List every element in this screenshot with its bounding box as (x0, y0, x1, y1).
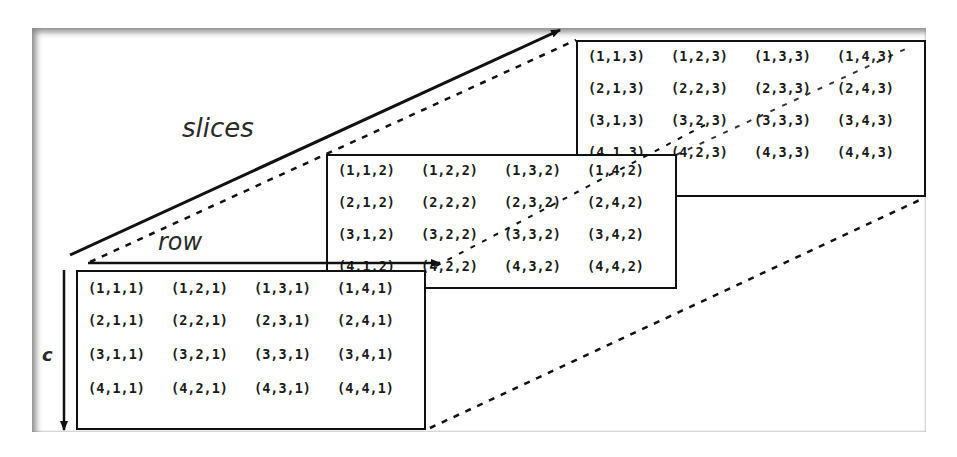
slices-label: slices (182, 113, 254, 143)
row-label: row (158, 228, 202, 256)
dashed-edge-bottom-right (430, 198, 924, 428)
connector-lines (0, 0, 957, 457)
column-label: c (42, 344, 53, 365)
dashed-edge-top-right (436, 125, 705, 266)
dashed-edge-top-right-upper (676, 46, 912, 155)
slices-arrow (70, 30, 560, 255)
